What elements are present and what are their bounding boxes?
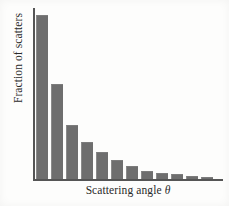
bar xyxy=(156,173,168,179)
bar xyxy=(111,160,123,180)
bar xyxy=(171,174,183,179)
bar xyxy=(201,177,213,180)
bar xyxy=(81,142,93,180)
bar xyxy=(186,176,198,179)
x-axis-label-text: Scattering angle xyxy=(86,184,162,196)
x-axis-label: Scattering angle θ xyxy=(33,184,223,196)
plot-area xyxy=(33,8,223,181)
bar xyxy=(126,166,138,179)
x-axis-line xyxy=(33,179,223,181)
y-axis-line xyxy=(33,8,35,181)
bar xyxy=(96,152,108,179)
bar xyxy=(36,15,48,179)
bar xyxy=(66,125,78,179)
bar xyxy=(141,171,153,180)
bar xyxy=(51,84,63,180)
scattering-angle-bar-chart: Fraction of scatters Scattering angle θ xyxy=(0,0,229,206)
y-axis-label: Fraction of scatters xyxy=(12,0,24,123)
bar-series xyxy=(36,8,223,179)
theta-symbol: θ xyxy=(165,184,171,196)
